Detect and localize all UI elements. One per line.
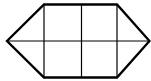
hexagon-diagram (0, 0, 151, 81)
